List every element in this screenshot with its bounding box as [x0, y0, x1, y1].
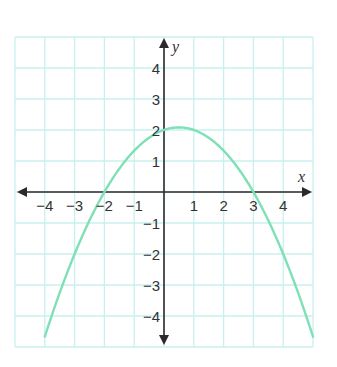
y-tick-label: 3	[152, 91, 160, 108]
x-axis-label: x	[297, 168, 305, 185]
y-tick-label: 4	[152, 60, 160, 77]
y-tick-label: −1	[143, 215, 160, 232]
y-tick-label: 2	[152, 122, 160, 139]
x-tick-label: 1	[190, 197, 198, 214]
x-tick-label: −1	[126, 197, 143, 214]
x-axis-right-arrow-icon	[302, 187, 312, 197]
x-tick-label: 4	[279, 197, 287, 214]
y-tick-label: 1	[152, 153, 160, 170]
y-axis-up-arrow-icon	[159, 38, 169, 48]
y-tick-label: −2	[143, 246, 160, 263]
parabola-curve	[45, 127, 313, 336]
x-tick-label: −4	[36, 197, 53, 214]
parabola-chart: −4−3−2−112344321−1−2−3−4 x y	[0, 0, 337, 367]
x-tick-label: −3	[66, 197, 83, 214]
y-tick-label: −4	[143, 308, 160, 325]
x-tick-label: 3	[249, 197, 257, 214]
x-tick-label: 2	[219, 197, 227, 214]
y-axis-label: y	[170, 38, 180, 56]
y-axis-down-arrow-icon	[159, 335, 169, 345]
x-tick-label: −2	[96, 197, 113, 214]
x-axis-left-arrow-icon	[17, 187, 27, 197]
curve-layer	[45, 127, 313, 336]
axes	[17, 38, 312, 345]
y-tick-label: −3	[143, 277, 160, 294]
